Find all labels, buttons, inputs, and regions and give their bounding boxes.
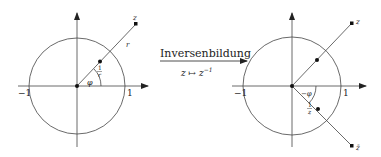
lower-inner-point-right bbox=[316, 107, 320, 111]
label-r-left: r bbox=[126, 41, 130, 49]
label-z-right: z bbox=[355, 18, 360, 26]
point-zbar-right bbox=[350, 144, 354, 148]
label-inv-den-right: z bbox=[307, 108, 312, 115]
left-diagram: −1 1 z r φ 1 r bbox=[18, 13, 148, 147]
label-neg1-right: −1 bbox=[234, 88, 247, 98]
label-neg1-left: −1 bbox=[18, 88, 31, 98]
upper-inner-point-right bbox=[315, 58, 319, 62]
label-z-left: z bbox=[132, 14, 137, 22]
ray-left bbox=[77, 24, 136, 86]
origin-point-right bbox=[290, 84, 294, 88]
label-inv-num-left: 1 bbox=[98, 64, 102, 71]
transform-arrow: Inversenbildung z ↦ z−1 bbox=[160, 47, 251, 78]
point-z-left bbox=[134, 22, 138, 26]
label-zbar-right: z̄ bbox=[355, 144, 360, 152]
ray-upper-right bbox=[292, 23, 352, 86]
label-inv-den-left: r bbox=[98, 71, 102, 78]
transform-title: Inversenbildung bbox=[160, 47, 251, 60]
label-1-left: 1 bbox=[127, 88, 133, 98]
point-z-right bbox=[350, 22, 354, 26]
label-phi-left: φ bbox=[87, 78, 93, 87]
label-1-right: 1 bbox=[343, 88, 349, 98]
transform-mapping: z ↦ z−1 bbox=[180, 66, 213, 78]
origin-point-left bbox=[75, 84, 79, 88]
inversion-diagram: −1 1 z r φ 1 r Inversenbildung z ↦ z−1 −… bbox=[0, 0, 381, 157]
inner-point-left bbox=[98, 60, 102, 64]
label-inv-num-right: 1 bbox=[308, 101, 312, 108]
label-neg-phi-right: −φ bbox=[301, 90, 312, 98]
right-diagram: −1 1 z z̄ −φ 1 z bbox=[232, 13, 366, 152]
